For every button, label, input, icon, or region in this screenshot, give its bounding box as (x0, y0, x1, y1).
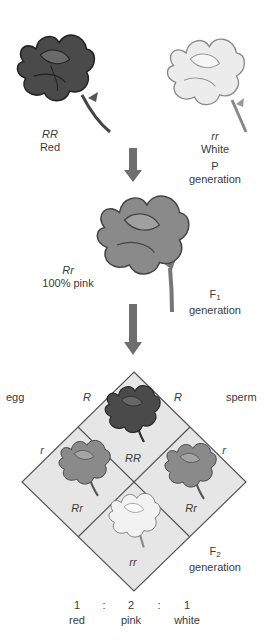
sperm-allele-r: r (219, 444, 229, 457)
ratio-white: 1 (176, 599, 198, 612)
ratio-red-label: red (60, 614, 94, 627)
sperm-allele-R: R (171, 391, 185, 404)
f1-generation-word: generation (180, 304, 250, 317)
f1-generation-letter: F1 (180, 288, 250, 304)
white-parent-flower-icon (167, 39, 246, 132)
ratio-pink-label: pink (114, 614, 148, 627)
ratio-separator: : (98, 599, 110, 612)
f1-genotype: Rr (38, 264, 98, 277)
f1-label: Rr 100% pink (38, 264, 98, 290)
f1-phenotype: 100% pink (38, 277, 98, 290)
red-parent-flower-icon (17, 35, 110, 132)
ratio-red: 1 (66, 599, 88, 612)
cell-genotype-left: Rr (62, 502, 92, 515)
cell-genotype-bottom: rr (118, 556, 148, 569)
red-parent-label: RR Red (30, 128, 70, 154)
ratio-pink: 2 (120, 599, 142, 612)
cell-genotype-top: RR (118, 452, 148, 465)
f2-generation-letter: F2 (180, 545, 250, 561)
ratio-white-count: 1 (176, 599, 198, 612)
cell-genotype-right: Rr (176, 502, 206, 515)
ratio-red-count: 1 (66, 599, 88, 612)
f2-generation-label: F2 generation (180, 545, 250, 574)
white-parent-genotype: rr (190, 130, 240, 143)
egg-label: egg (6, 391, 30, 404)
ratio-white-label: white (166, 614, 208, 627)
sperm-label: sperm (226, 391, 266, 404)
f1-generation-label: F1 generation (180, 288, 250, 317)
arrow-down-icon (124, 304, 142, 355)
p-generation-word: generation (180, 173, 250, 186)
p-generation-label: P generation (180, 160, 250, 186)
p-generation-letter: P (180, 160, 250, 173)
pink-f1-flower-icon (97, 196, 189, 312)
red-parent-genotype: RR (30, 128, 70, 141)
white-parent-label: rr White (190, 130, 240, 156)
white-parent-phenotype: White (190, 143, 240, 156)
ratio-separator: : (153, 599, 165, 612)
red-parent-phenotype: Red (30, 141, 70, 154)
arrow-down-icon (124, 148, 142, 182)
egg-allele-R: R (80, 391, 94, 404)
f2-generation-word: generation (180, 561, 250, 574)
egg-allele-r: r (37, 444, 47, 457)
ratio-pink-count: 2 (120, 599, 142, 612)
